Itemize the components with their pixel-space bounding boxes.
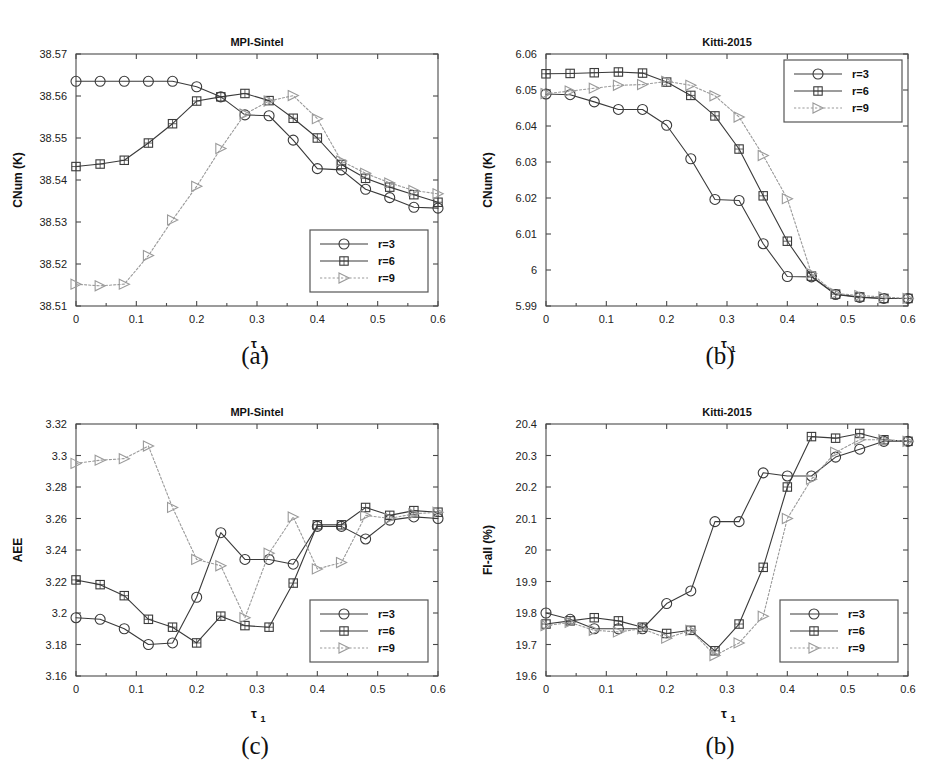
x-tick-label: 0.2 (659, 313, 674, 325)
chart-title: Kitti-2015 (702, 406, 752, 418)
legend-label: r=9 (378, 272, 395, 284)
x-tick-label: 0.5 (370, 683, 385, 695)
y-tick-label: 20.4 (516, 418, 537, 430)
legend-label: r=6 (848, 625, 865, 637)
y-axis-label: AEE (11, 538, 25, 563)
legend-label: r=6 (378, 625, 395, 637)
y-tick-label: 38.55 (39, 132, 67, 144)
subfigure-caption-a: (a) (195, 342, 315, 370)
x-tick-label: 0.5 (370, 313, 385, 325)
chart-background (470, 392, 940, 762)
x-tick-label: 0 (543, 313, 549, 325)
svg-text:τ: τ (721, 706, 727, 721)
y-tick-label: 3.2 (52, 607, 67, 619)
legend-label: r=6 (378, 255, 395, 267)
y-axis-label: CNum (K) (481, 152, 495, 207)
y-tick-label: 3.3 (52, 450, 67, 462)
chart-svg-a: MPI-Sintel00.10.20.30.40.50.638.5138.523… (0, 22, 470, 392)
chart-legend: r=3r=6r=9 (780, 600, 898, 662)
y-tick-label: 3.16 (46, 670, 67, 682)
legend-label: r=6 (852, 85, 869, 97)
y-tick-label: 20.3 (516, 450, 537, 462)
y-tick-label: 3.24 (46, 544, 67, 556)
legend-label: r=9 (848, 642, 865, 654)
x-tick-label: 0.4 (780, 683, 795, 695)
x-tick-label: 0.3 (719, 683, 734, 695)
legend-label: r=9 (378, 642, 395, 654)
x-tick-label: 0.4 (780, 313, 795, 325)
chart-title: Kitti-2015 (702, 36, 752, 48)
y-tick-label: 19.7 (516, 639, 537, 651)
y-tick-label: 38.57 (39, 48, 67, 60)
x-tick-label: 0.3 (249, 313, 264, 325)
subfigure-caption-c: (c) (195, 732, 315, 760)
y-tick-label: 19.6 (516, 670, 537, 682)
chart-legend: r=3r=6r=9 (310, 230, 428, 292)
y-axis-label: Fl-all (%) (481, 525, 495, 575)
x-tick-label: 0.5 (840, 313, 855, 325)
y-tick-label: 20 (525, 544, 537, 556)
x-tick-label: 0 (543, 683, 549, 695)
x-tick-label: 0.1 (599, 683, 614, 695)
y-tick-label: 6.05 (516, 84, 537, 96)
y-tick-label: 3.22 (46, 576, 67, 588)
y-tick-label: 20.2 (516, 481, 537, 493)
chart-legend: r=3r=6r=9 (784, 60, 902, 122)
y-tick-label: 6.06 (516, 48, 537, 60)
x-tick-label: 0.2 (659, 683, 674, 695)
legend-label: r=3 (852, 68, 869, 80)
subfigure-caption-d: (b) (660, 732, 780, 760)
y-tick-label: 6.01 (516, 228, 537, 240)
x-tick-label: 0.4 (310, 313, 325, 325)
y-tick-label: 38.52 (39, 258, 67, 270)
y-tick-label: 3.26 (46, 513, 67, 525)
y-tick-label: 38.56 (39, 90, 67, 102)
chart-panel-a: MPI-Sintel00.10.20.30.40.50.638.5138.523… (0, 22, 470, 392)
x-tick-label: 0.3 (249, 683, 264, 695)
y-tick-label: 3.32 (46, 418, 67, 430)
chart-title: MPI-Sintel (230, 36, 283, 48)
subfigure-caption-b: (b) (660, 342, 780, 370)
y-tick-label: 19.9 (516, 576, 537, 588)
y-tick-label: 6.03 (516, 156, 537, 168)
legend-label: r=3 (848, 608, 865, 620)
x-tick-label: 0 (73, 313, 79, 325)
svg-text:τ: τ (251, 706, 257, 721)
y-tick-label: 6.02 (516, 192, 537, 204)
y-tick-label: 6 (531, 264, 537, 276)
chart-background (0, 392, 470, 762)
y-tick-label: 38.53 (39, 216, 67, 228)
x-tick-label: 0 (73, 683, 79, 695)
chart-legend: r=3r=6r=9 (310, 600, 428, 662)
y-tick-label: 19.8 (516, 607, 537, 619)
x-tick-label: 0.6 (430, 683, 445, 695)
y-tick-label: 38.54 (39, 174, 67, 186)
chart-svg-b: Kitti-201500.10.20.30.40.50.65.9966.016.… (470, 22, 940, 392)
x-tick-label: 0.2 (189, 313, 204, 325)
x-tick-label: 0.6 (900, 313, 915, 325)
figure-container: MPI-Sintel00.10.20.30.40.50.638.5138.523… (0, 0, 949, 783)
chart-svg-c: MPI-Sintel00.10.20.30.40.50.63.163.183.2… (0, 392, 470, 762)
chart-panel-d: Kitti-201500.10.20.30.40.50.619.619.719.… (470, 392, 940, 762)
x-tick-label: 0.3 (719, 313, 734, 325)
x-tick-label: 0.4 (310, 683, 325, 695)
x-tick-label: 0.6 (430, 313, 445, 325)
x-tick-label: 0.1 (129, 683, 144, 695)
y-tick-label: 3.18 (46, 639, 67, 651)
legend-label: r=9 (852, 102, 869, 114)
y-tick-label: 6.04 (516, 120, 537, 132)
x-tick-label: 0.5 (840, 683, 855, 695)
chart-panel-b: Kitti-201500.10.20.30.40.50.65.9966.016.… (470, 22, 940, 392)
svg-text:1: 1 (260, 714, 265, 724)
y-tick-label: 20.1 (516, 513, 537, 525)
x-tick-label: 0.1 (129, 313, 144, 325)
legend-label: r=3 (378, 608, 395, 620)
chart-title: MPI-Sintel (230, 406, 283, 418)
y-tick-label: 38.51 (39, 300, 67, 312)
x-tick-label: 0.6 (900, 683, 915, 695)
x-tick-label: 0.1 (599, 313, 614, 325)
chart-panel-c: MPI-Sintel00.10.20.30.40.50.63.163.183.2… (0, 392, 470, 762)
y-tick-label: 5.99 (516, 300, 537, 312)
x-tick-label: 0.2 (189, 683, 204, 695)
y-tick-label: 3.28 (46, 481, 67, 493)
